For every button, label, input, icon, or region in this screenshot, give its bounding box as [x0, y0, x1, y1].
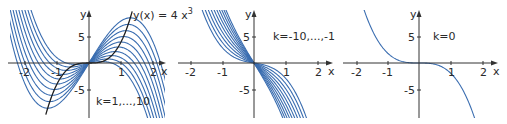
x-tick-label: 1 — [118, 66, 125, 79]
y-tick-label: 5 — [408, 31, 415, 44]
x-axis-label: x — [328, 65, 335, 78]
y-tick-label: 5 — [243, 31, 250, 44]
figure: -2 -1 1 2 x 5 -5 y y(x) = 4 x3 k=1,...,1… — [0, 0, 507, 124]
x-tick-label: 2 — [480, 66, 487, 79]
x-tick-label: 2 — [315, 66, 322, 79]
x-axis: -2 -1 1 2 x — [343, 61, 500, 80]
panel-2: -2 -1 1 2 x 5 -5 y k=-10,...,-1 — [174, 0, 335, 124]
x-tick-label: -2 — [19, 66, 30, 79]
x-tick-label: -2 — [351, 66, 362, 79]
y-axis-label: y — [245, 8, 252, 21]
y-tick-label: 5 — [78, 31, 85, 44]
x-tick-label: -1 — [382, 66, 393, 79]
y-tick-label: -5 — [74, 84, 85, 97]
y-tick-label: -5 — [404, 84, 415, 97]
y-axis-arrow-icon — [417, 10, 422, 17]
x-tick-label: 2 — [150, 66, 157, 79]
x-axis-label: x — [493, 65, 500, 78]
y-axis-arrow-icon — [87, 10, 92, 17]
x-tick-label: 1 — [283, 66, 290, 79]
x-tick-label: -1 — [51, 66, 62, 79]
panel-1: -2 -1 1 2 x 5 -5 y y(x) = 4 x3 k=1,...,1… — [8, 0, 193, 124]
y-axis-label: y — [410, 8, 417, 21]
panel-3: -2 -1 1 2 x 5 -5 y k=0 — [339, 0, 500, 124]
y-axis-arrow-icon — [252, 10, 257, 17]
x-tick-label: -2 — [185, 66, 196, 79]
x-tick-label: 1 — [448, 66, 455, 79]
x-axis: -2 -1 1 2 x — [178, 61, 335, 80]
k-range-annotation: k=-10,...,-1 — [273, 30, 335, 43]
y-tick-label: -5 — [239, 84, 250, 97]
k-range-annotation: k=0 — [433, 30, 456, 43]
y-axis-label: y — [80, 8, 87, 21]
envelope-label: y(x) = 4 x3 — [133, 7, 193, 22]
x-axis-label: x — [161, 65, 168, 78]
x-tick-label: -1 — [217, 66, 228, 79]
k-range-annotation: k=1,...,10 — [96, 95, 150, 108]
